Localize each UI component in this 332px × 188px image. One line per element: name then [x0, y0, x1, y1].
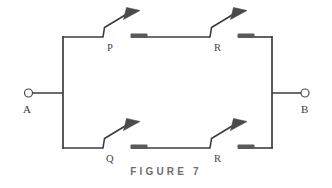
contact-q-label: Q	[106, 154, 114, 165]
contact-r-top-arrowhead-icon	[231, 8, 248, 20]
contact-r-bottom-fixed-bar	[238, 144, 255, 149]
figure-caption: FIGURE 7	[0, 166, 332, 177]
contact-r-bottom-actuator-arm	[210, 126, 233, 149]
figure-canvas: A B P R Q R FIGURE 7	[0, 0, 332, 188]
contact-r-top-blade	[210, 8, 247, 38]
terminal-a-circle-icon	[25, 89, 33, 97]
contact-p-blade	[103, 8, 140, 38]
contact-p-fixed-bar	[131, 33, 148, 38]
contact-r-bottom-blade	[210, 119, 247, 149]
top-branch-group	[62, 8, 273, 39]
contact-r-top-actuator-arm	[210, 15, 233, 38]
terminal-b-label: B	[301, 104, 308, 115]
relay-network-diagram	[0, 0, 332, 188]
contact-r-bottom-label: R	[214, 154, 221, 165]
contact-r-top-label: R	[214, 43, 221, 54]
terminal-a-group	[25, 89, 64, 97]
contact-q-actuator-arm	[103, 126, 126, 149]
contact-p-label: P	[107, 43, 113, 54]
terminal-b-circle-icon	[301, 89, 309, 97]
contact-r-top-fixed-bar	[238, 33, 255, 38]
terminal-b-group	[272, 89, 309, 97]
bottom-branch-group	[62, 119, 273, 150]
terminal-a-label: A	[23, 104, 31, 115]
contact-r-bottom-arrowhead-icon	[231, 119, 248, 131]
contact-q-fixed-bar	[131, 144, 148, 149]
contact-p-arrowhead-icon	[124, 8, 141, 20]
contact-q-arrowhead-icon	[124, 119, 141, 131]
contact-p-actuator-arm	[103, 15, 126, 38]
contact-q-blade	[103, 119, 140, 149]
